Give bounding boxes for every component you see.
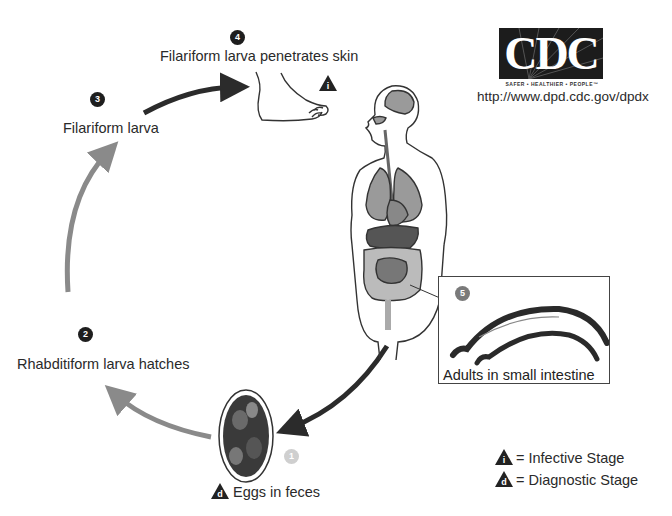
logo-text: CDC bbox=[499, 32, 603, 76]
source-link[interactable]: http://www.dpd.cdc.gov/dpdx bbox=[477, 89, 649, 104]
stage-1-label: Eggs in feces bbox=[233, 484, 320, 500]
egg-illustration bbox=[219, 390, 273, 482]
svg-text:i: i bbox=[503, 455, 506, 465]
legend-diagnostic-icon: d bbox=[495, 471, 513, 487]
stage-3-number: 3 bbox=[90, 92, 105, 107]
arrow-3-to-4 bbox=[144, 87, 235, 113]
infective-stage-icon: i bbox=[319, 75, 337, 91]
svg-text:i: i bbox=[327, 81, 330, 91]
diagnostic-stage-icon: d bbox=[211, 483, 229, 499]
adult-worms-illustration bbox=[439, 277, 609, 367]
logo-tagline: SAFER • HEALTHIER • PEOPLE™ bbox=[497, 81, 607, 87]
legend-infective-icon: i bbox=[495, 449, 513, 465]
arrow-5-to-1 bbox=[290, 346, 387, 428]
stage-2-label: Rhabditiform larva hatches bbox=[17, 356, 189, 372]
stage-2-number: 2 bbox=[78, 327, 93, 342]
legend-infective-text: = Infective Stage bbox=[516, 450, 624, 466]
svg-text:d: d bbox=[501, 477, 507, 487]
stage-5-label: Adults in small intestine bbox=[443, 367, 595, 383]
stage-4-label: Filariform larva penetrates skin bbox=[160, 48, 358, 64]
svg-text:d: d bbox=[217, 489, 223, 499]
arrow-1-to-2 bbox=[116, 395, 211, 437]
foot-illustration bbox=[256, 72, 328, 121]
legend-diagnostic-text: = Diagnostic Stage bbox=[516, 472, 638, 488]
human-body-illustration bbox=[351, 86, 447, 360]
arrow-2-to-3 bbox=[67, 152, 108, 292]
stage-3-label: Filariform larva bbox=[63, 120, 159, 136]
stage-1-number: 1 bbox=[284, 449, 299, 464]
stage-4-number: 4 bbox=[230, 30, 245, 45]
adults-panel: 5 Adults in small intestine bbox=[438, 276, 610, 384]
cdc-logo: CDC bbox=[499, 28, 603, 79]
